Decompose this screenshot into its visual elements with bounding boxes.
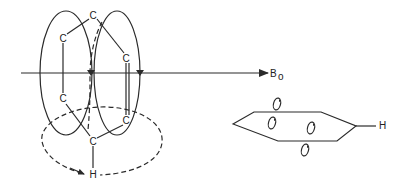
atom-h-right: H (379, 120, 386, 131)
atom-c-lower-left: C (59, 93, 66, 104)
atom-c-top: C (89, 10, 96, 21)
orbital-loop-icon (272, 97, 282, 110)
orbital-loop-icon (306, 121, 316, 134)
atom-c-bottom: C (89, 136, 96, 147)
atom-c-upper-left: C (59, 33, 66, 44)
field-label: B o (270, 68, 284, 82)
atom-c-lower-right: C (122, 115, 129, 126)
benzene-perspective-view: H (233, 97, 386, 156)
bond (97, 125, 123, 138)
benzene-side-view: C C C C C C H (21, 10, 268, 180)
ring-current-loop (42, 107, 162, 175)
hexagon-ring (233, 112, 356, 141)
orbital-loop-icon (267, 116, 277, 129)
atom-c-upper-right: C (122, 53, 129, 64)
orbital-loop-icon (300, 143, 310, 156)
ring-current-diagram: C C C C C C H B o H (0, 0, 412, 187)
bond (97, 19, 124, 53)
svg-text:B: B (270, 68, 277, 79)
ring-current-arrow-icon (70, 168, 84, 174)
atom-h-bottom: H (89, 169, 96, 180)
svg-text:o: o (278, 71, 284, 82)
